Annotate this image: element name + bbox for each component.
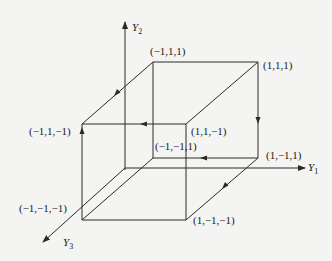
vertex-label: (−1,1,−1) [29,126,71,137]
vertex-label: (−1,−1,−1) [19,203,67,214]
arrow-icon [140,122,147,127]
vertex-label: (1,−1,1) [266,150,302,161]
edge-bottom-left-diag [82,158,153,220]
vertex-label: (1,1,−1) [191,126,227,137]
arrow-icon [222,182,229,189]
arrow-icon [114,89,121,96]
vertex-label: (1,−1,−1) [193,215,235,226]
y2-axis-label: Y2 [132,22,142,36]
vertex-label: (−1,−1,1) [155,141,197,152]
y3-axis-label: Y3 [63,237,73,251]
y1-axis-label: Y1 [308,162,318,176]
edge-top-right-diag [186,62,258,124]
arrow-icon [200,156,207,161]
cube-diagram: Y2 Y1 Y3 (−1,1,1) (1,1,1) (−1,1,−1) (1,1… [0,0,332,261]
vertex-label: (−1,1,1) [150,46,186,57]
arrow-icon [80,127,85,134]
vertex-label: (1,1,1) [263,60,292,71]
arrow-icon [256,117,261,124]
